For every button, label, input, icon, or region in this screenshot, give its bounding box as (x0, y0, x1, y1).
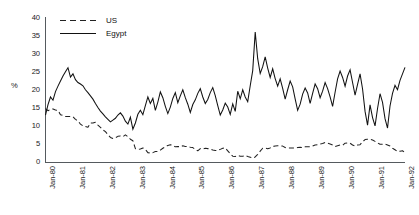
series-line-egypt (46, 32, 406, 129)
legend-label-us: US (106, 16, 117, 25)
legend-swatch-dashed-icon (60, 16, 96, 25)
series-line-us (46, 109, 406, 159)
chart-legend: US Egypt (60, 14, 126, 40)
legend-label-egypt: Egypt (106, 29, 126, 38)
legend-item-egypt: Egypt (60, 27, 126, 40)
inflation-line-chart: % 0510152025303540 Jan-80Jan-81Jan-82Jan… (0, 0, 419, 215)
legend-item-us: US (60, 14, 126, 27)
legend-swatch-solid-icon (60, 29, 96, 38)
